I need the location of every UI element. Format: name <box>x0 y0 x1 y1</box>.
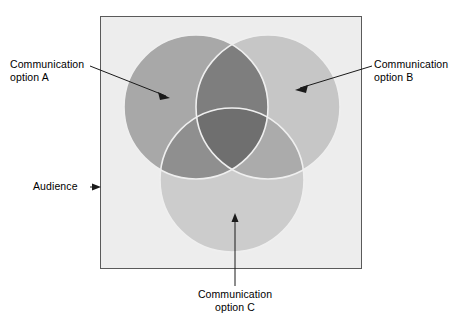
venn-diagram-figure: Communication option A Communication opt… <box>0 0 460 319</box>
label-option-c: Communication option C <box>183 288 287 313</box>
label-audience: Audience <box>33 180 89 193</box>
label-option-a: Communication option A <box>10 58 94 83</box>
label-option-b: Communication option B <box>374 58 458 83</box>
audience-region <box>100 16 362 269</box>
